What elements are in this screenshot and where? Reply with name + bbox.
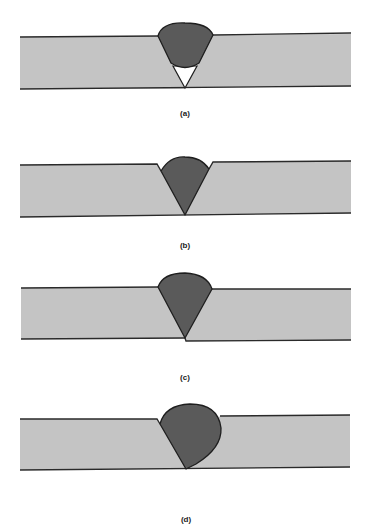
panel-b: (b)	[20, 157, 351, 250]
caption-c: (c)	[180, 373, 190, 382]
caption-a: (a)	[180, 109, 190, 118]
plate-c-top-left	[21, 287, 158, 288]
weld-defects-figure: (a) (b) (c) (d)	[0, 0, 368, 532]
plate-b-left	[20, 164, 185, 217]
plate-d-top-right	[220, 415, 350, 416]
plate-b-right	[185, 161, 351, 215]
panel-a: (a)	[20, 23, 351, 118]
plate-c-right	[185, 289, 351, 341]
caption-d: (d)	[181, 515, 192, 524]
plate-a	[20, 36, 185, 89]
plate-a-top-left	[20, 36, 158, 37]
plate-c-left	[21, 287, 185, 339]
panel-d: (d)	[20, 404, 350, 524]
plate-c-bottom-left	[21, 338, 185, 339]
panel-c: (c)	[21, 273, 351, 382]
caption-b: (b)	[180, 241, 191, 250]
